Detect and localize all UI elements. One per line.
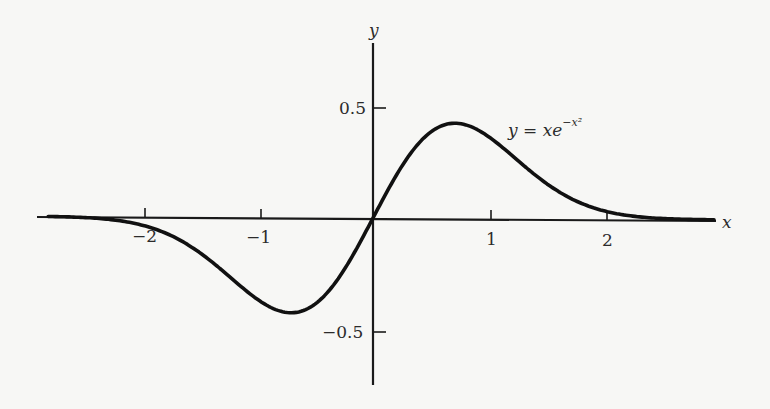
x-tick-label-m2: −2 bbox=[132, 228, 157, 245]
chart-plot-area bbox=[0, 0, 770, 409]
x-tick-label-1: 1 bbox=[486, 231, 497, 248]
x-axis-label: x bbox=[722, 214, 732, 231]
x-tick-label-m1: −1 bbox=[246, 229, 271, 246]
x-axis-line bbox=[37, 217, 716, 221]
equation-base: y = xe bbox=[508, 120, 562, 140]
x-tick-label-2: 2 bbox=[602, 232, 613, 249]
y-axis-label: y bbox=[369, 22, 379, 39]
y-tick-label-m05: −0.5 bbox=[322, 324, 363, 341]
curve-equation-label: y = xe−x² bbox=[508, 120, 582, 139]
y-tick-label-p05: 0.5 bbox=[339, 100, 366, 117]
equation-exponent: −x² bbox=[562, 116, 582, 129]
